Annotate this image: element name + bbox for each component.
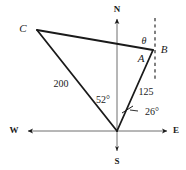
side-length-label-200: 200 bbox=[54, 79, 69, 89]
vertex-label-b: B bbox=[161, 44, 168, 55]
angle-leader-26 bbox=[130, 110, 138, 111]
angle-label-52: 52° bbox=[96, 95, 110, 105]
side-c-to-b bbox=[37, 30, 153, 50]
vertex-label-c: C bbox=[19, 23, 26, 34]
side-origin-to-c bbox=[37, 30, 117, 131]
side-length-label-125: 125 bbox=[139, 87, 154, 97]
bearing-triangle-figure: N S W E C B A 200 125 52° 26° θ bbox=[0, 0, 186, 170]
angle-label-26: 26° bbox=[145, 107, 159, 117]
point-label-a: A bbox=[138, 53, 145, 64]
figure-canvas bbox=[0, 0, 186, 170]
compass-label-west: W bbox=[10, 126, 19, 135]
compass-label-east: E bbox=[173, 126, 179, 135]
angle-label-theta: θ bbox=[142, 36, 147, 46]
compass-label-north: N bbox=[114, 5, 121, 14]
compass-label-south: S bbox=[114, 157, 119, 166]
